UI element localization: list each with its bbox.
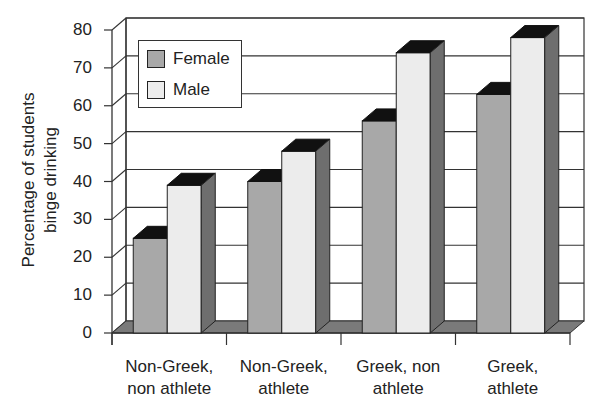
y-tick-label: 40: [60, 172, 92, 192]
x-category-label: Greek, nonathlete: [333, 356, 463, 400]
side-wall-line: [112, 56, 126, 68]
bar-side: [545, 26, 559, 333]
bar-male: [511, 38, 545, 333]
y-tick-label: 80: [60, 20, 92, 40]
bar-side: [316, 139, 330, 333]
legend-label-male: Male: [173, 80, 210, 100]
y-tick-label: 10: [60, 285, 92, 305]
legend-swatch-male: [147, 81, 165, 99]
y-axis-label-line-2: binge drinking: [40, 93, 62, 268]
legend-swatch-female: [147, 50, 165, 68]
y-tick-label: 50: [60, 134, 92, 154]
bar-side: [201, 173, 215, 333]
bar-female: [248, 182, 282, 334]
x-category-label: Greek,athlete: [448, 356, 578, 400]
y-tick-label: 60: [60, 96, 92, 116]
side-wall-line: [112, 207, 126, 219]
side-wall-line: [112, 170, 126, 182]
side-wall-line: [112, 132, 126, 144]
y-tick-label: 20: [60, 247, 92, 267]
bar-male: [396, 53, 430, 333]
side-wall-line: [112, 283, 126, 295]
x-category-label: Non-Greek,non athlete: [104, 356, 234, 400]
x-category-label: Non-Greek,athlete: [219, 356, 349, 400]
y-axis-label-line-1: Percentage of students: [18, 93, 40, 268]
legend-item-female: Female: [147, 48, 230, 70]
bar-male: [282, 151, 316, 333]
legend-item-male: Male: [147, 79, 210, 101]
side-wall-line: [112, 245, 126, 257]
y-tick-label: 0: [60, 323, 92, 343]
bar-female: [362, 121, 396, 333]
side-wall-line: [112, 94, 126, 106]
y-tick-label: 30: [60, 209, 92, 229]
bar-female: [477, 94, 511, 333]
side-wall-line: [112, 18, 126, 30]
bar-male: [167, 185, 201, 333]
bar-side: [430, 41, 444, 333]
legend: Female Male: [138, 40, 242, 108]
bar-female: [133, 238, 167, 333]
y-tick-label: 70: [60, 58, 92, 78]
legend-label-female: Female: [173, 49, 230, 69]
